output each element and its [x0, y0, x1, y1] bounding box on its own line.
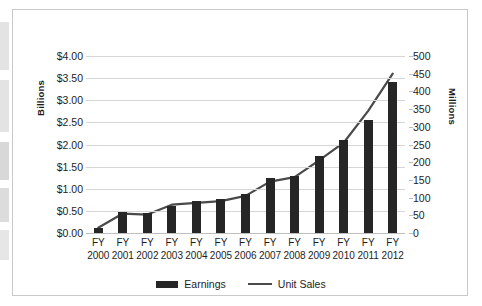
bar-column [258, 56, 283, 233]
bar-column [160, 56, 185, 233]
legend-label-unit-sales: Unit Sales [278, 278, 326, 290]
earnings-bar [266, 178, 275, 233]
right-axis-tick-label: 50 [413, 209, 425, 221]
x-axis-tick-label: FY2006 [233, 236, 258, 262]
bar-column [135, 56, 160, 233]
axis-baseline [86, 233, 405, 234]
earnings-bar [94, 228, 103, 233]
earnings-bar [216, 199, 225, 234]
x-axis-tick-label: FY2003 [160, 236, 185, 262]
x-axis-tick-label: FY2005 [209, 236, 234, 262]
line-swatch-icon [248, 283, 272, 285]
bar-column [380, 56, 405, 233]
x-axis-tick-label: FY2000 [86, 236, 111, 262]
x-axis-tick-label: FY2007 [258, 236, 283, 262]
legend-item-unit-sales: Unit Sales [248, 278, 326, 290]
bar-column [209, 56, 234, 233]
right-axis-tick-label: 0 [413, 227, 419, 239]
right-axis-tick-mark [409, 145, 413, 146]
right-axis-tick-label: 450 [413, 68, 431, 80]
x-axis-tick-label: FY2011 [356, 236, 381, 262]
scan-edge-artifact [0, 230, 9, 260]
right-axis-tick-mark [409, 56, 413, 57]
earnings-bar [167, 206, 176, 233]
scan-edge-artifact [0, 22, 9, 70]
bar-column [282, 56, 307, 233]
x-axis-tick-label: FY2010 [331, 236, 356, 262]
right-axis-tick-label: 250 [413, 139, 431, 151]
right-axis-tick-mark [409, 127, 413, 128]
x-axis-tick-label: FY2004 [184, 236, 209, 262]
earnings-bar [364, 120, 373, 233]
right-axis-tick-label: 150 [413, 174, 431, 186]
x-axis: FY2000FY2001FY2002FY2003FY2004FY2005FY20… [86, 236, 405, 274]
right-axis-tick-label: 100 [413, 192, 431, 204]
right-axis-tick-mark [409, 162, 413, 163]
right-axis-tick-mark [409, 74, 413, 75]
right-axis-tick-mark [409, 109, 413, 110]
left-axis-tick-label: $0.00 [57, 227, 83, 239]
bar-column [86, 56, 111, 233]
right-axis-title: Millions [447, 88, 458, 125]
left-axis-tick-label: $1.50 [57, 161, 83, 173]
scan-edge-artifact [0, 80, 9, 132]
earnings-bar [241, 194, 250, 233]
right-axis: 050100150200250300350400450500 [413, 50, 443, 239]
x-axis-tick-label: FY2002 [135, 236, 160, 262]
right-axis-tick-mark [409, 233, 413, 234]
legend-label-earnings: Earnings [184, 278, 225, 290]
bar-column [356, 56, 381, 233]
bar-column [111, 56, 136, 233]
x-axis-tick-label: FY2008 [282, 236, 307, 262]
scan-edge-artifact [0, 142, 9, 180]
left-axis-tick-label: $3.00 [57, 94, 83, 106]
right-axis-tick-mark [409, 198, 413, 199]
earnings-bar [192, 201, 201, 233]
earnings-bar [118, 212, 127, 233]
left-axis-tick-label: $0.50 [57, 205, 83, 217]
right-axis-tick-mark [409, 215, 413, 216]
left-axis-tick-label: $3.50 [57, 72, 83, 84]
plot-area [86, 56, 405, 233]
left-axis-tick-label: $2.50 [57, 116, 83, 128]
right-axis-tick-label: 350 [413, 103, 431, 115]
left-axis: $0.00$0.50$1.00$1.50$2.00$2.50$3.00$3.50… [37, 50, 83, 239]
x-axis-tick-label: FY2001 [111, 236, 136, 262]
bar-column [307, 56, 332, 233]
chart-legend: Earnings Unit Sales [13, 278, 469, 290]
left-axis-tick-label: $1.00 [57, 183, 83, 195]
earnings-bar [388, 82, 397, 233]
bar-column [331, 56, 356, 233]
legend-item-earnings: Earnings [156, 278, 225, 290]
right-axis-tick-mark [409, 180, 413, 181]
bar-swatch-icon [156, 281, 178, 288]
right-axis-tick-label: 300 [413, 121, 431, 133]
x-axis-tick-label: FY2009 [307, 236, 332, 262]
bar-column [184, 56, 209, 233]
earnings-bar [290, 176, 299, 233]
left-axis-tick-label: $2.00 [57, 139, 83, 151]
earnings-bar [315, 156, 324, 233]
right-axis-tick-label: 500 [413, 50, 431, 62]
scan-edge-artifact [0, 188, 9, 222]
right-axis-tick-label: 400 [413, 85, 431, 97]
earnings-bar [143, 213, 152, 233]
page-background: Billions $0.00$0.50$1.00$1.50$2.00$2.50$… [0, 0, 482, 306]
earnings-bar [339, 140, 348, 233]
right-axis-tick-mark [409, 91, 413, 92]
chart-container: Billions $0.00$0.50$1.00$1.50$2.00$2.50$… [12, 9, 468, 296]
right-axis-tick-label: 200 [413, 156, 431, 168]
bar-column [233, 56, 258, 233]
x-axis-tick-label: FY2012 [380, 236, 405, 262]
left-axis-tick-label: $4.00 [57, 50, 83, 62]
